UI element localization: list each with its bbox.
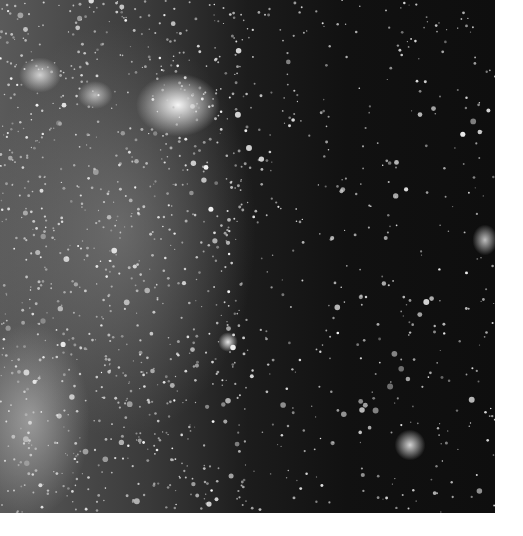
star-field [0, 0, 495, 513]
star-field-photo [0, 0, 495, 513]
